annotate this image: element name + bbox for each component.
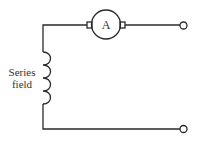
top-terminal <box>180 22 187 29</box>
series-field-label-line2: field <box>12 78 33 90</box>
series-motor-diagram: A Series field <box>0 0 198 143</box>
bottom-terminal <box>180 126 187 133</box>
bottom-wire <box>43 104 180 129</box>
series-field-label-line1: Series <box>9 66 36 78</box>
armature-label: A <box>102 18 111 32</box>
top-left-wire <box>43 25 87 52</box>
series-field-coil-icon <box>43 52 51 104</box>
